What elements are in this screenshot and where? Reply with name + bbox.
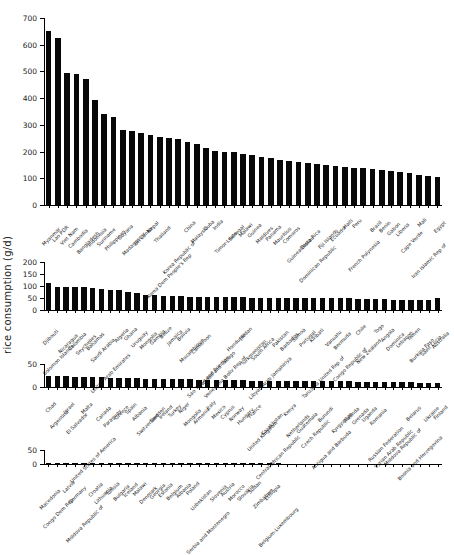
x-tick (93, 387, 94, 390)
x-tick (66, 310, 67, 313)
x-tick (190, 387, 191, 390)
bar (196, 380, 201, 387)
bar (152, 379, 157, 387)
x-tick (340, 464, 341, 467)
bar (407, 173, 413, 205)
bar (63, 376, 68, 387)
x-tick (181, 387, 182, 390)
bar (379, 170, 385, 205)
x-tick (243, 387, 244, 390)
x-tick (411, 310, 412, 313)
x-tick (75, 387, 76, 390)
x-tick (411, 464, 412, 467)
x-tick-label: Guyana (117, 224, 134, 241)
x-tick-label: Nepal (146, 220, 160, 234)
y-tick-label: 500 (11, 67, 37, 76)
x-tick (243, 464, 244, 467)
y-tick-label: 300 (11, 120, 37, 129)
bar (296, 162, 302, 205)
bar (46, 283, 51, 310)
x-tick (393, 387, 394, 390)
x-tick (429, 387, 430, 390)
x-tick (402, 310, 403, 313)
x-tick (178, 205, 179, 208)
bar (259, 157, 265, 205)
x-tick (438, 310, 439, 313)
x-tick (208, 464, 209, 467)
bar (92, 100, 98, 205)
x-tick (155, 464, 156, 467)
x-tick (296, 464, 297, 467)
x-tick (197, 205, 198, 208)
bar (399, 300, 404, 310)
x-tick (252, 310, 253, 313)
x-tick (420, 464, 421, 467)
bar (305, 163, 311, 205)
x-tick (49, 205, 50, 208)
bar (116, 290, 121, 310)
x-tick (393, 464, 394, 467)
x-tick (66, 387, 67, 390)
x-tick-label: Djibouti (42, 329, 59, 346)
bar (116, 378, 121, 387)
bar (99, 377, 104, 387)
y-tick-label: 200 (11, 258, 37, 267)
x-tick (349, 387, 350, 390)
bar (323, 165, 329, 205)
bar (170, 379, 175, 387)
x-tick (57, 310, 58, 313)
y-tick (40, 18, 44, 19)
x-tick (391, 205, 392, 208)
bar (55, 376, 60, 387)
x-tick (262, 205, 263, 208)
x-tick (270, 387, 271, 390)
bar (143, 295, 148, 310)
x-tick (48, 387, 49, 390)
y-tick-label: 0 (11, 201, 37, 210)
x-tick (84, 387, 85, 390)
bar (46, 376, 51, 387)
bar (55, 38, 61, 205)
x-tick (243, 310, 244, 313)
bar (408, 300, 413, 310)
y-tick (40, 450, 44, 451)
bar (101, 114, 107, 205)
x-tick (160, 205, 161, 208)
bar (286, 161, 292, 205)
bar (342, 167, 348, 205)
bar (134, 293, 139, 310)
x-tick (137, 464, 138, 467)
bar (203, 148, 209, 205)
x-tick (199, 464, 200, 467)
x-tick (76, 205, 77, 208)
x-tick-label: Kazakhstan (260, 412, 284, 436)
x-tick (323, 310, 324, 313)
x-tick (252, 387, 253, 390)
y-tick-label: 100 (11, 174, 37, 183)
bar (397, 172, 403, 205)
bar (134, 378, 139, 387)
bar (148, 135, 154, 205)
bar (81, 377, 86, 387)
bar (214, 297, 219, 310)
x-tick (86, 205, 87, 208)
bar (267, 298, 272, 310)
bar (370, 169, 376, 205)
x-tick (132, 205, 133, 208)
y-tick (40, 310, 44, 311)
x-tick (48, 464, 49, 467)
x-tick (199, 387, 200, 390)
x-tick (75, 310, 76, 313)
x-tick-label: Moldova Republic of (65, 505, 104, 544)
bar (382, 299, 387, 310)
bar (293, 298, 298, 310)
y-tick-label: 600 (11, 40, 37, 49)
x-tick (340, 310, 341, 313)
x-tick-label: Egypt (433, 220, 447, 234)
x-tick (93, 310, 94, 313)
x-tick (314, 387, 315, 390)
x-tick (66, 464, 67, 467)
x-tick (420, 310, 421, 313)
x-tick (305, 310, 306, 313)
